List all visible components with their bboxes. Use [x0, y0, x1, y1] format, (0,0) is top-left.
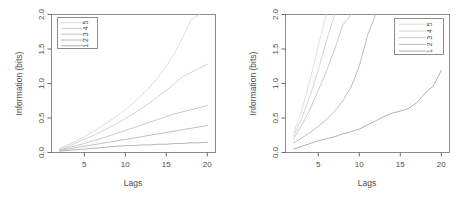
- legend-label: 3: [82, 32, 89, 36]
- legend-label: 5: [82, 21, 89, 25]
- y-tick-label: 1.0: [37, 77, 46, 89]
- left-y-axis-ticks: [48, 15, 52, 153]
- legend-label: 1: [426, 49, 433, 53]
- right-legend[interactable]: 5 4 3 2 1: [395, 19, 444, 55]
- legend-label: 4: [426, 29, 433, 33]
- legend-label: 2: [426, 42, 433, 46]
- x-axis-title: Lags: [124, 178, 142, 188]
- y-tick-label: 0.5: [271, 112, 280, 124]
- y-tick-label: 2.0: [37, 8, 46, 20]
- legend-label: 4: [82, 26, 89, 30]
- legend-label: 3: [426, 36, 433, 40]
- y-axis-title: Information (bits): [248, 51, 258, 115]
- legend-label: 1: [82, 44, 89, 48]
- y-tick-label: 0.0: [271, 146, 280, 158]
- x-tick-label: 5: [82, 160, 87, 169]
- x-tick-label: 15: [162, 160, 171, 169]
- x-axis-title: Lags: [358, 178, 376, 188]
- x-tick-label: 5: [316, 160, 321, 169]
- left-x-tick-labels: 5 10 15 20: [82, 160, 212, 169]
- x-tick-label: 20: [203, 160, 212, 169]
- right-x-tick-labels: 5 10 15 20: [316, 160, 446, 169]
- right-y-axis-ticks: [282, 15, 286, 153]
- chart-panel-left: 0.0 0.5 1.0 1.5 2.0 5 10 15 20 Lags Info…: [0, 0, 233, 199]
- x-tick-label: 20: [437, 160, 446, 169]
- y-axis-title: Information (bits): [14, 51, 24, 115]
- x-tick-label: 15: [396, 160, 405, 169]
- left-legend[interactable]: 5 4 3 2 1: [58, 18, 98, 49]
- figure-two-panel-line-charts: 0.0 0.5 1.0 1.5 2.0 5 10 15 20 Lags Info…: [0, 0, 467, 199]
- y-tick-label: 0.0: [37, 146, 46, 158]
- right-plot-svg: 0.0 0.5 1.0 1.5 2.0 5 10 15 20 Lags Info…: [234, 0, 467, 199]
- legend-label: 2: [82, 38, 89, 42]
- left-x-axis-ticks: [84, 153, 207, 157]
- y-tick-label: 1.5: [37, 43, 46, 55]
- y-tick-label: 1.5: [271, 43, 280, 55]
- right-y-tick-labels: 0.0 0.5 1.0 1.5 2.0: [271, 8, 280, 158]
- x-tick-label: 10: [355, 160, 364, 169]
- right-x-axis-ticks: [318, 153, 441, 157]
- x-tick-label: 10: [121, 160, 130, 169]
- y-tick-label: 0.5: [37, 112, 46, 124]
- legend-label: 5: [426, 22, 433, 26]
- chart-panel-right: 0.0 0.5 1.0 1.5 2.0 5 10 15 20 Lags Info…: [234, 0, 467, 199]
- left-plot-svg: 0.0 0.5 1.0 1.5 2.0 5 10 15 20 Lags Info…: [0, 0, 233, 199]
- y-tick-label: 2.0: [271, 8, 280, 20]
- y-tick-label: 1.0: [271, 77, 280, 89]
- left-y-tick-labels: 0.0 0.5 1.0 1.5 2.0: [37, 8, 46, 158]
